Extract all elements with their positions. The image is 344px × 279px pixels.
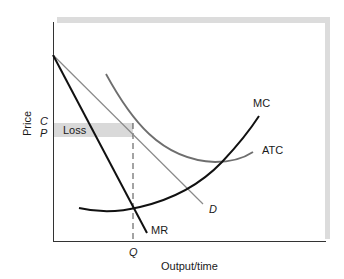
q-mark: Q <box>129 246 138 258</box>
mc-label: MC <box>253 97 270 109</box>
mr-label: MR <box>151 224 168 236</box>
atc-label: ATC <box>262 144 283 156</box>
frame-top-bar <box>57 17 330 23</box>
p-mark: P <box>40 127 48 139</box>
d-label: D <box>209 203 217 215</box>
y-axis-title: Price <box>21 111 33 136</box>
frame-right-bar <box>325 17 330 239</box>
loss-label: Loss <box>63 124 87 136</box>
x-axis-title: Output/time <box>161 260 218 272</box>
c-mark: C <box>40 115 48 127</box>
economics-loss-diagram: Loss MC ATC D MR C P Q Price Output/time <box>0 0 344 279</box>
atc-curve <box>106 74 253 162</box>
